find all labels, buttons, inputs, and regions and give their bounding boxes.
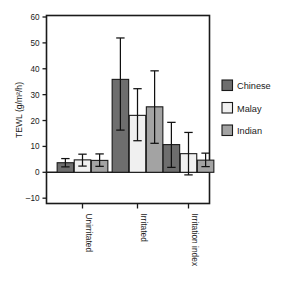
- y-tick-label: 30: [30, 91, 40, 100]
- y-tick-label: 40: [30, 65, 40, 74]
- y-tick-label: 20: [30, 117, 40, 126]
- y-axis-label: TEWL (g/m²/h): [14, 82, 24, 138]
- x-tick-label-0: Unirritated: [84, 214, 94, 253]
- legend: ChineseMalayIndian: [222, 80, 271, 136]
- y-tick-label: 0: [35, 168, 40, 177]
- legend-swatch-malay: [222, 103, 233, 114]
- legend-label-chinese: Chinese: [237, 81, 271, 91]
- bar-chart-svg: 6050403020100–10 TEWL (g/m²/h) Unirritat…: [0, 0, 289, 291]
- x-tick-label-2: Irritation index: [190, 214, 200, 267]
- y-tick-label: –10: [26, 194, 40, 203]
- legend-label-malay: Malay: [237, 104, 262, 114]
- y-tick-label: 10: [30, 142, 40, 151]
- x-tick-label-1: Irritated: [139, 214, 149, 243]
- legend-swatch-indian: [222, 125, 233, 136]
- legend-label-indian: Indian: [237, 126, 262, 136]
- y-tick-label: 60: [30, 13, 40, 22]
- chart-figure: 6050403020100–10 TEWL (g/m²/h) Unirritat…: [0, 0, 289, 291]
- x-axis-categories: UnirritatedIrritatedIrritation index: [83, 204, 200, 267]
- y-tick-label: 50: [30, 39, 40, 48]
- y-axis-ticks: 6050403020100–10: [26, 13, 47, 203]
- bars-layer: [57, 38, 214, 175]
- legend-swatch-chinese: [222, 80, 233, 91]
- y-axis-label-text: TEWL (g/m²/h): [14, 82, 24, 138]
